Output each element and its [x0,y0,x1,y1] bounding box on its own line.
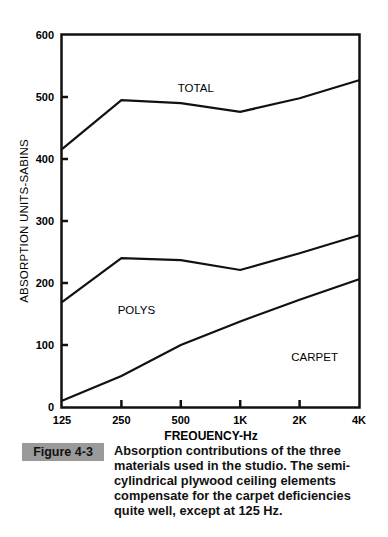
series-label-polys: POLYS [118,304,156,316]
y-tick-label: 0 [48,401,54,413]
x-tick-label: 125 [53,414,71,426]
series-line-carpet [62,279,359,401]
x-tick-label: 250 [112,414,130,426]
y-tick-label: 200 [36,277,54,289]
series-line-polys [62,235,359,302]
series-labels: TOTALPOLYSCARPET [118,82,338,362]
caption-text: Absorption contributions of the three ma… [114,443,374,518]
x-tick-label: 4K [352,414,366,426]
x-axis-ticks: 1252505001K2K4K [53,400,366,426]
y-tick-label: 400 [36,153,54,165]
x-tick-label: 500 [172,414,190,426]
series-label-carpet: CARPET [291,351,338,363]
series-label-total: TOTAL [178,82,215,94]
y-tick-label: 500 [36,91,54,103]
x-tick-label: 2K [293,414,307,426]
y-axis-ticks: 0100200300400500600 [36,29,68,413]
figure-label-badge: Figure 4-3 [22,443,104,461]
absorption-chart: 0100200300400500600 1252505001K2K4K TOTA… [0,0,388,440]
x-tick-label: 1K [233,414,247,426]
y-axis-label: ABSORPTION UNITS-SABINS [18,139,30,303]
y-tick-label: 600 [36,29,54,41]
y-tick-label: 300 [36,215,54,227]
y-tick-label: 100 [36,339,54,351]
x-axis-label: FREQUENCY-Hz [164,429,257,440]
